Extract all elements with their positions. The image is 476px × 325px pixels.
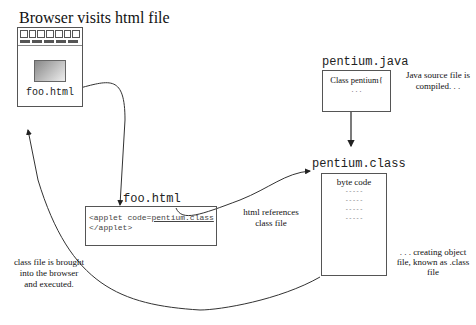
html-file-box: <applet code=pentium.class </applet> [85, 206, 217, 246]
menu-segment-icon [56, 40, 66, 43]
menu-segment-icon [20, 40, 30, 43]
java-source-box: Class pentium{ . . . [322, 70, 391, 112]
menu-segment-icon [32, 40, 42, 43]
toolbar-button-icon [46, 30, 54, 38]
java-source-title: pentium.java [322, 55, 408, 69]
toolbar-button-icon [20, 30, 28, 38]
html-file-title: foo.html [123, 192, 181, 206]
byte-code-lines: ----- ----- ----- ----- [322, 187, 386, 223]
java-compiled-note: Java source file is compiled. . . [402, 70, 474, 92]
toolbar-button-icon [55, 30, 63, 38]
browser-menubar [18, 38, 82, 46]
menu-segment-icon [68, 40, 78, 43]
browser-toolbar [18, 28, 82, 38]
browser-filename: foo.html [18, 87, 82, 98]
applet-image-icon [34, 60, 66, 82]
java-line-1: Class pentium{ [323, 71, 390, 85]
toolbar-button-icon [72, 30, 80, 38]
class-file-box: byte code ----- ----- ----- ----- [321, 173, 387, 276]
class-file-note: . . . creating object file, known as .cl… [392, 247, 474, 277]
arrow-browser-to-html [80, 83, 125, 205]
html-line-2: </applet> [86, 222, 216, 232]
browser-title: Browser visits html file [19, 9, 170, 27]
java-line-2: . . . [323, 85, 390, 94]
class-executed-note: class file is brought into the browser a… [10, 257, 88, 290]
class-reference-link: pentium.class [151, 213, 213, 222]
menu-segment-icon [44, 40, 54, 43]
toolbar-button-icon [37, 30, 45, 38]
html-line-1: <applet code=pentium.class [86, 207, 216, 222]
byte-code-header: byte code [322, 174, 386, 187]
toolbar-button-icon [64, 30, 72, 38]
toolbar-button-icon [29, 30, 37, 38]
html-references-note: html references class file [240, 207, 302, 229]
class-file-title: pentium.class [312, 157, 406, 171]
browser-window: foo.html [17, 27, 83, 107]
